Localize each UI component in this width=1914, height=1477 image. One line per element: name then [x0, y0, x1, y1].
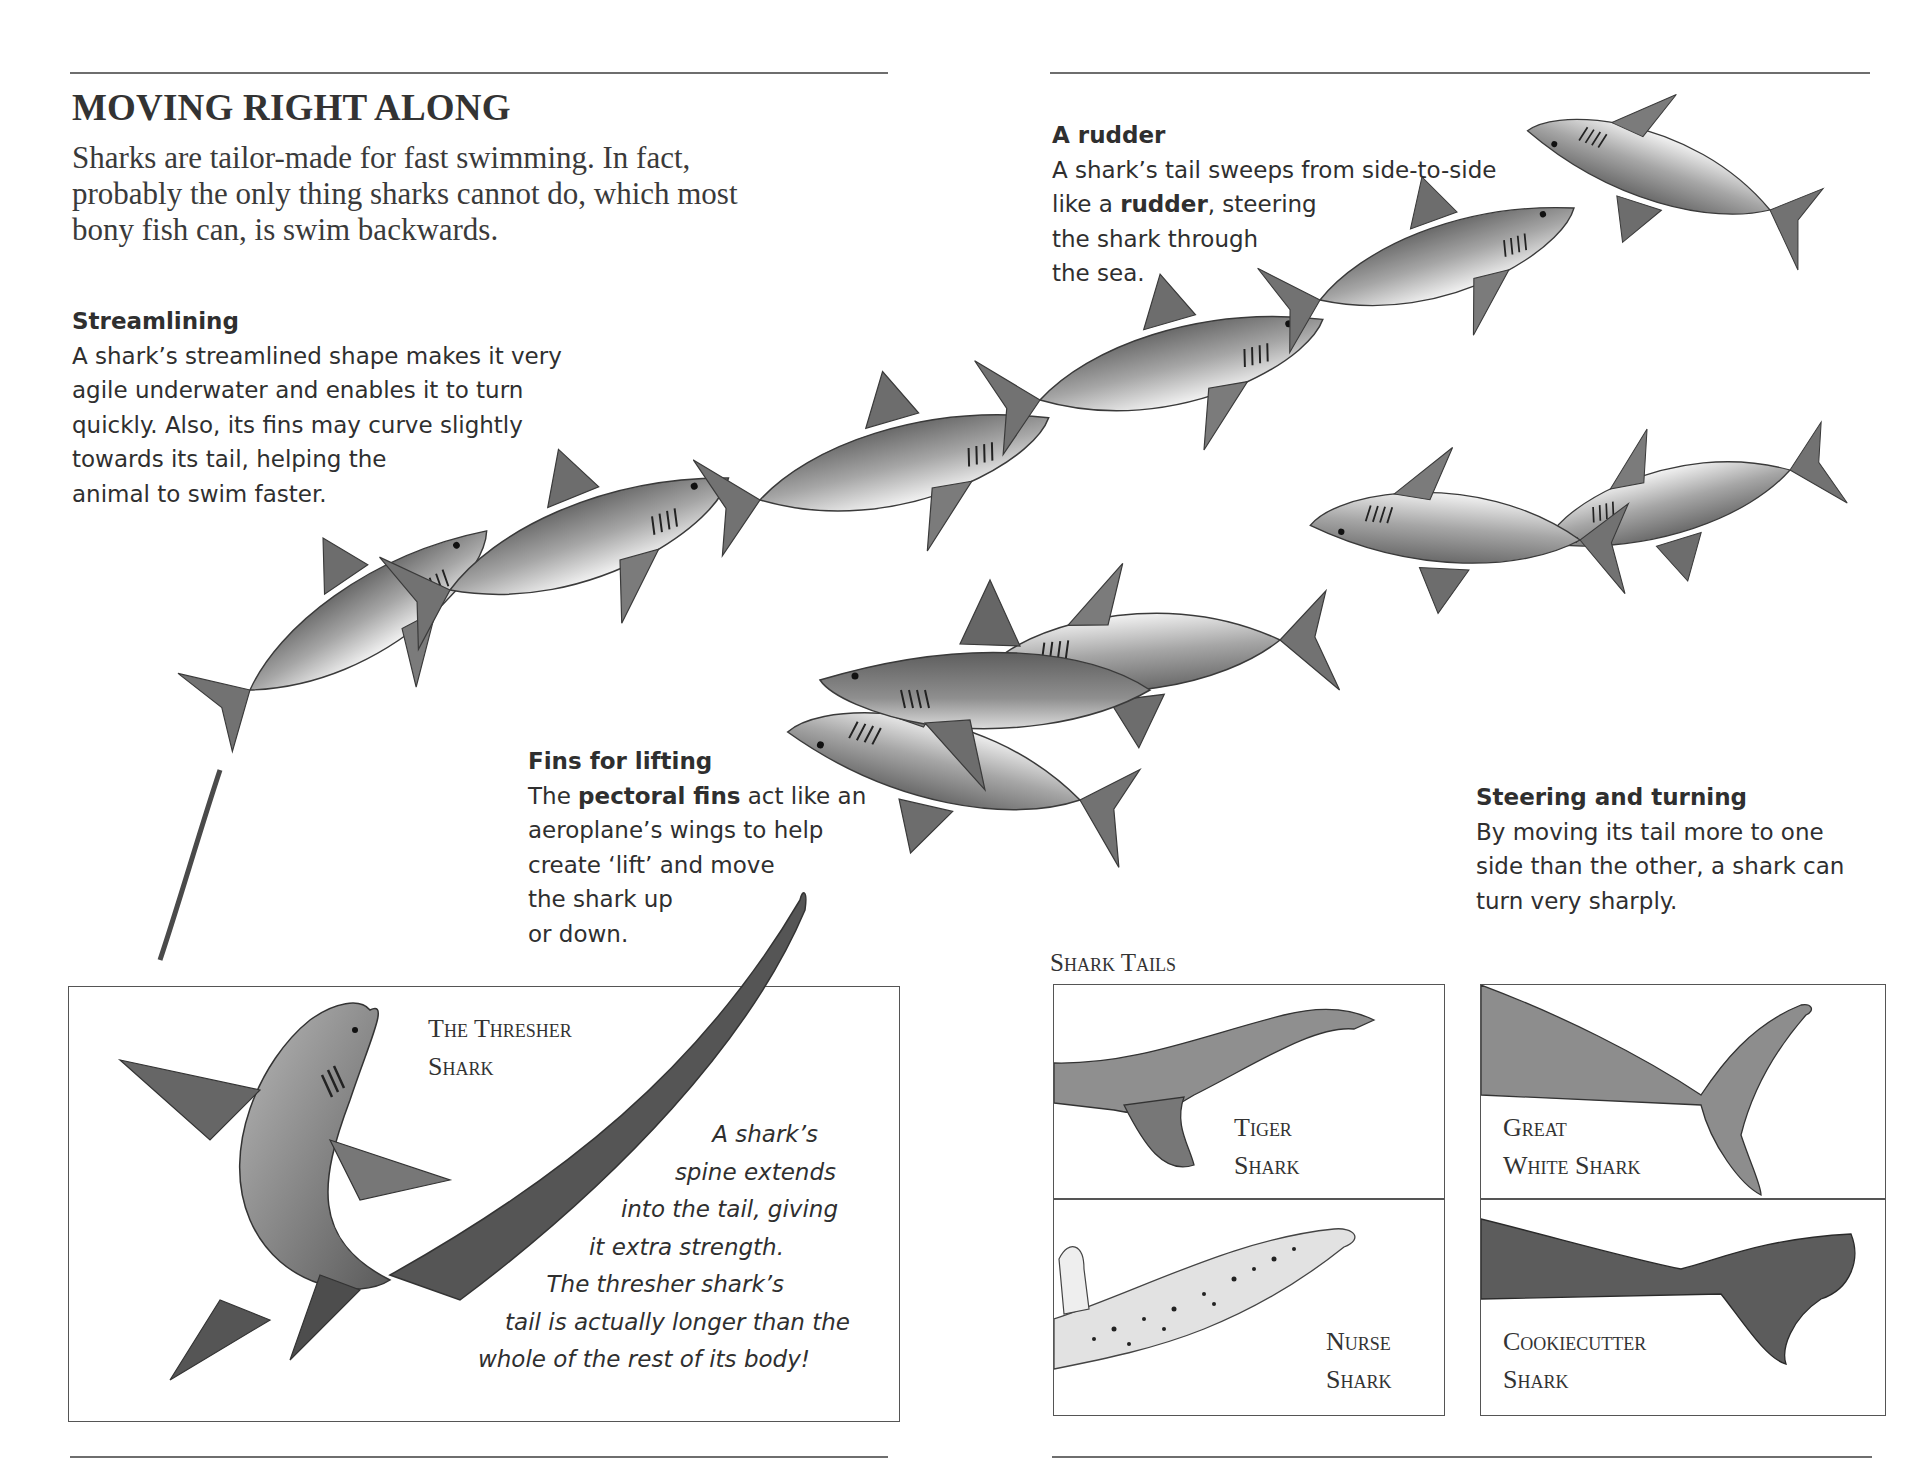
note-line: it extra strength. — [478, 1229, 784, 1267]
caption-line: the sea. — [1052, 256, 1496, 291]
bottom-rule-left — [70, 1456, 888, 1458]
caption-rudder: A rudder A shark’s tail sweeps from side… — [1052, 118, 1496, 291]
caption-line: aeroplane’s wings to help — [528, 813, 866, 848]
tail-panel-cookiecutter: Cookiecutter Shark — [1480, 1198, 1886, 1416]
label-line: Shark — [1326, 1361, 1391, 1399]
label-line: Nurse — [1326, 1323, 1391, 1361]
caption-steering-and-turning: Steering and turning By moving its tail … — [1476, 780, 1844, 918]
intro-line: probably the only thing sharks cannot do… — [72, 176, 872, 212]
label-line: White Shark — [1503, 1147, 1641, 1185]
label-line: Shark — [1503, 1361, 1646, 1399]
bold-term: pectoral fins — [578, 783, 740, 809]
tail-label-cookiecutter: Cookiecutter Shark — [1503, 1323, 1646, 1399]
tail-label-nurse: Nurse Shark — [1326, 1323, 1391, 1399]
note-line: whole of the rest of its body! — [478, 1341, 810, 1379]
caption-line: animal to swim faster. — [72, 477, 562, 512]
note-line: tail is actually longer than the — [478, 1304, 850, 1342]
thresher-note: A shark’s spine extends into the tail, g… — [478, 1116, 850, 1379]
caption-line: The pectoral fins act like an — [528, 779, 866, 814]
caption-line: create ‘lift’ and move — [528, 848, 866, 883]
caption-heading: Streamlining — [72, 304, 562, 339]
bottom-rule-right — [1052, 1456, 1872, 1458]
caption-line: turn very sharply. — [1476, 884, 1844, 919]
thresher-title-line: The Thresher — [428, 1010, 572, 1048]
label-line: Great — [1503, 1109, 1641, 1147]
bold-term: rudder — [1120, 191, 1208, 217]
caption-line: the shark through — [1052, 222, 1496, 257]
text-run: , steering — [1208, 191, 1317, 217]
caption-line: quickly. Also, its fins may curve slight… — [72, 408, 562, 443]
label-line: Tiger — [1234, 1109, 1299, 1147]
caption-line: like a rudder, steering — [1052, 187, 1496, 222]
note-line: The thresher shark’s — [478, 1266, 784, 1304]
text-run: The — [528, 783, 578, 809]
label-line: Shark — [1234, 1147, 1299, 1185]
caption-line: A shark’s streamlined shape makes it ver… — [72, 339, 562, 374]
thresher-title-line: Shark — [428, 1048, 572, 1086]
intro-paragraph: Sharks are tailor-made for fast swimming… — [72, 140, 872, 248]
shark-tails-heading: Shark Tails — [1050, 944, 1176, 982]
note-line: into the tail, giving — [478, 1191, 838, 1229]
thresher-title: The Thresher Shark — [428, 1010, 572, 1086]
caption-line: A shark’s tail sweeps from side-to-side — [1052, 153, 1496, 188]
tail-panel-great-white: Great White Shark — [1480, 984, 1886, 1200]
caption-line: agile underwater and enables it to turn — [72, 373, 562, 408]
caption-line: side than the other, a shark can — [1476, 849, 1844, 884]
note-line: spine extends — [478, 1154, 836, 1192]
tail-label-tiger: Tiger Shark — [1234, 1109, 1299, 1185]
intro-line: Sharks are tailor-made for fast swimming… — [72, 140, 872, 176]
caption-line: towards its tail, helping the — [72, 442, 562, 477]
tail-panel-tiger: Tiger Shark — [1053, 984, 1445, 1200]
text-run: like a — [1052, 191, 1120, 217]
caption-heading: A rudder — [1052, 118, 1496, 153]
label-line: Cookiecutter — [1503, 1323, 1646, 1361]
caption-streamlining: Streamlining A shark’s streamlined shape… — [72, 304, 562, 511]
page-title: MOVING RIGHT ALONG — [72, 86, 511, 129]
caption-line: By moving its tail more to one — [1476, 815, 1844, 850]
text-run: act like an — [740, 783, 866, 809]
caption-heading: Fins for lifting — [528, 744, 866, 779]
caption-heading: Steering and turning — [1476, 780, 1844, 815]
tail-panel-nurse: Nurse Shark — [1053, 1198, 1445, 1416]
intro-line: bony fish can, is swim backwards. — [72, 212, 872, 248]
note-line: A shark’s — [478, 1116, 818, 1154]
tail-label-great-white: Great White Shark — [1503, 1109, 1641, 1185]
